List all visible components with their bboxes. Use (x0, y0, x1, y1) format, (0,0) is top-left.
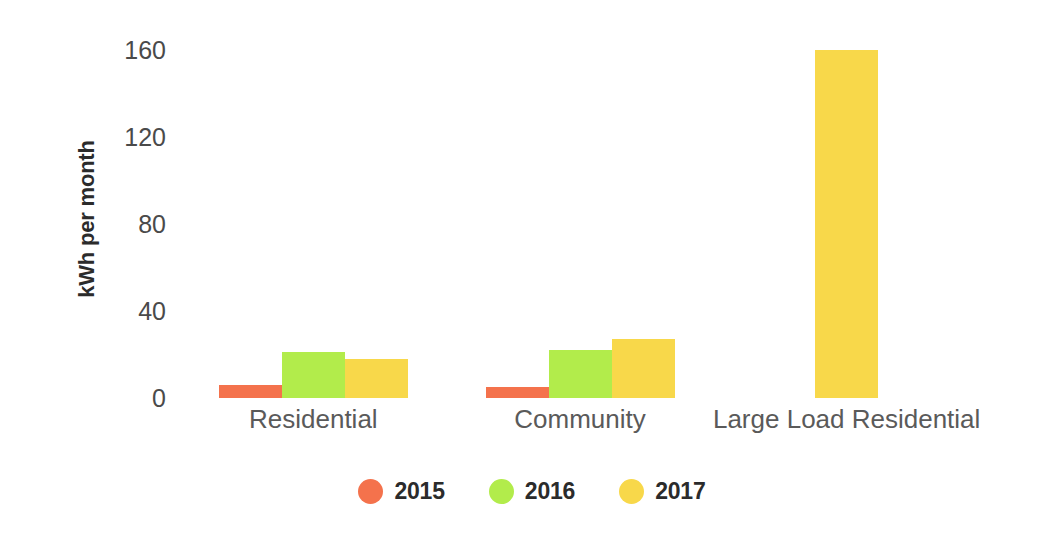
y-axis-tick: 160 (106, 38, 166, 63)
bar (815, 50, 878, 398)
legend-label: 2017 (655, 478, 705, 505)
legend-item-2016[interactable]: 2016 (489, 478, 575, 505)
bar (612, 339, 675, 398)
bar (345, 359, 408, 398)
y-axis-tick: 0 (106, 386, 166, 411)
bar (486, 387, 549, 398)
bar-chart: kWh per month 16012080400 ResidentialCom… (0, 0, 1064, 543)
x-axis-category-label: Residential (249, 404, 378, 435)
y-axis-tick: 80 (106, 212, 166, 237)
circle-swatch-icon (489, 479, 514, 504)
legend-item-2015[interactable]: 2015 (358, 478, 444, 505)
y-axis-tick: 120 (106, 125, 166, 150)
chart-legend: 201520162017 (0, 478, 1064, 505)
legend-label: 2016 (525, 478, 575, 505)
y-axis-title: kWh per month (72, 50, 102, 388)
y-axis-tick: 40 (106, 299, 166, 324)
x-axis-category-label: Community (514, 404, 645, 435)
bar (219, 385, 282, 398)
bar (282, 352, 345, 398)
legend-label: 2015 (394, 478, 444, 505)
x-axis-category-labels: ResidentialCommunityLarge Load Residenti… (180, 404, 980, 444)
circle-swatch-icon (619, 479, 644, 504)
bar (549, 350, 612, 398)
legend-item-2017[interactable]: 2017 (619, 478, 705, 505)
y-axis-tick-labels: 16012080400 (106, 0, 166, 543)
x-axis-category-label: Large Load Residential (713, 404, 980, 435)
circle-swatch-icon (358, 479, 383, 504)
plot-area (180, 50, 980, 398)
